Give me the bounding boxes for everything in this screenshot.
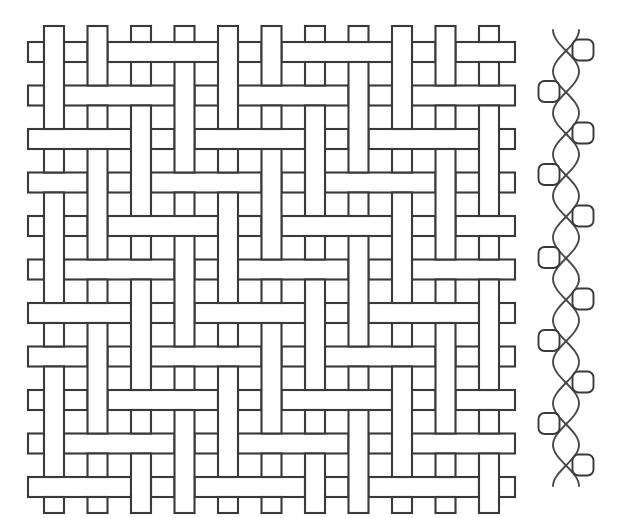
weft-yarn-segment [195, 129, 306, 149]
weft-yarn-segment [282, 42, 393, 62]
warp-yarn-segment [218, 497, 238, 513]
warp-yarn-segment [479, 454, 499, 514]
weft-yarn-segment [28, 390, 44, 410]
weft-yarn-segment [325, 347, 436, 367]
weft-yarn-segment [64, 216, 88, 236]
warp-yarn-segment [131, 106, 151, 217]
weft-yarn-segment [369, 303, 480, 323]
weft-yarn-segment [108, 173, 132, 193]
weft-yarn-segment [499, 477, 515, 497]
weave-diagram [28, 26, 515, 513]
warp-yarn-segment [305, 236, 325, 260]
weft-yarn-cross-section [573, 123, 594, 144]
weft-yarn-segment [195, 434, 219, 454]
weft-yarn-cross-section [539, 164, 560, 185]
warp-yarn-segment [88, 149, 108, 260]
warp-yarn-segment [262, 26, 282, 86]
weft-yarn-segment [64, 434, 175, 454]
warp-yarn-segment [349, 193, 369, 217]
warp-yarn-segment [175, 236, 195, 347]
warp-yarn-segment [175, 410, 195, 513]
weft-yarn-segment [64, 86, 175, 106]
weft-yarn-segment [28, 42, 44, 62]
weft-yarn-segment [369, 434, 393, 454]
weft-yarn-segment [28, 434, 44, 454]
warp-yarn-segment [262, 454, 282, 478]
weft-yarn-segment [238, 86, 349, 106]
weft-yarn-segment [108, 390, 219, 410]
figure-container [0, 0, 617, 518]
weft-yarn-segment [64, 260, 175, 280]
warp-yarn-segment [131, 280, 151, 391]
weft-yarn-segment [369, 477, 480, 497]
warp-yarn-segment [305, 106, 325, 217]
weft-yarn-segment [195, 303, 306, 323]
warp-yarn-segment [88, 26, 108, 86]
weft-yarn-segment [456, 347, 480, 367]
warp-yarn-segment [392, 367, 412, 478]
warp-yarn-segment [218, 26, 238, 129]
warp-yarn-segment [218, 149, 238, 173]
warp-yarn-segment [131, 236, 151, 260]
weft-yarn-cross-section [539, 413, 560, 434]
warp-yarn-segment [436, 497, 456, 513]
weft-yarn-segment [412, 434, 515, 454]
weft-yarn-segment [108, 42, 219, 62]
weft-yarn-segment [456, 173, 480, 193]
fabric-structure-figure [0, 0, 617, 518]
warp-yarn-segment [349, 236, 369, 347]
warp-yarn-segment [479, 26, 499, 42]
warp-yarn-segment [436, 26, 456, 86]
warp-yarn-segment [349, 367, 369, 391]
weft-yarn-cross-section [539, 330, 560, 351]
warp-yarn-segment [262, 280, 282, 304]
weft-yarn-segment [238, 216, 262, 236]
warp-yarn-segment [131, 62, 151, 86]
weft-yarn-segment [151, 173, 262, 193]
warp-yarn-segment [175, 367, 195, 391]
warp-yarn-segment [44, 323, 64, 347]
weft-yarn-cross-section [573, 372, 594, 393]
weft-yarn-segment [238, 390, 262, 410]
warp-yarn-segment [262, 497, 282, 513]
weft-yarn-segment [325, 129, 349, 149]
weft-yarn-segment [28, 173, 88, 193]
weft-yarn-cross-section [573, 206, 594, 227]
weft-yarn-segment [412, 260, 515, 280]
warp-yarn-segment [479, 280, 499, 391]
warp-yarn-segment [88, 323, 108, 434]
weft-yarn-cross-section [573, 289, 594, 310]
weft-yarn-segment [195, 477, 306, 497]
weft-yarn-segment [282, 173, 306, 193]
weft-yarn-segment [325, 303, 349, 323]
weft-yarn-segment [151, 129, 175, 149]
warp-yarn-segment [436, 106, 456, 130]
warp-yarn-segment [305, 410, 325, 434]
weft-yarn-segment [499, 129, 515, 149]
warp-yarn-segment [392, 193, 412, 304]
warp-yarn-segment [305, 280, 325, 391]
weft-yarn-segment [238, 260, 349, 280]
warp-yarn-segment [131, 26, 151, 42]
warp-yarn-segment [305, 26, 325, 42]
warp-yarn-segment [44, 367, 64, 478]
weft-yarn-segment [195, 260, 219, 280]
warp-yarn-segment [305, 62, 325, 86]
weft-yarn-segment [456, 216, 516, 236]
warp-yarn-segment [218, 323, 238, 347]
weft-yarn-cross-section [573, 455, 594, 476]
warp-yarn-segment [44, 26, 64, 129]
weft-yarn-cross-section [539, 247, 560, 268]
weft-yarn-segment [412, 216, 436, 236]
weft-yarn-segment [195, 86, 219, 106]
warp-yarn-segment [44, 149, 64, 173]
warp-yarn-segment [218, 367, 238, 478]
weft-yarn-segment [28, 303, 131, 323]
warp-yarn-segment [479, 236, 499, 260]
warp-yarn-segment [44, 193, 64, 304]
weft-yarn-segment [499, 347, 515, 367]
weft-yarn-cross-section [573, 40, 594, 61]
warp-yarn-segment [88, 106, 108, 130]
weft-yarn-segment [456, 42, 516, 62]
weft-yarn-segment [499, 303, 515, 323]
